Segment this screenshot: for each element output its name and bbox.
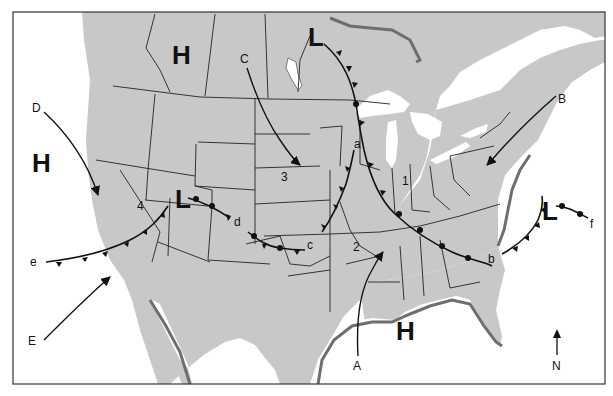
region-label-3: 3 — [281, 170, 288, 184]
region-label-4: 4 — [137, 199, 144, 213]
region-label-1: 1 — [402, 174, 409, 188]
high-pressure-pacific: H — [32, 148, 51, 178]
high-pressure-canada: H — [172, 40, 191, 70]
weather-map: N H H H L L L a b c d e f A B C D E 1 2 … — [0, 0, 613, 396]
arrow-label-A: A — [353, 359, 361, 373]
arrow-label-E: E — [28, 334, 36, 348]
front-dot — [396, 211, 402, 217]
arrow-E — [44, 277, 110, 340]
region-label-2: 2 — [353, 240, 360, 254]
front-label-a: a — [354, 137, 361, 151]
low-pressure-utah: L — [175, 184, 191, 214]
high-pressure-gulf: H — [396, 316, 415, 346]
front-dot — [465, 255, 471, 261]
cold-front-triangle — [102, 251, 108, 257]
low-pressure-manitoba: L — [308, 22, 324, 52]
arrow-label-D: D — [32, 101, 41, 115]
front-label-f: f — [590, 217, 594, 231]
front-label-c: c — [307, 238, 313, 252]
front-dot — [417, 227, 423, 233]
cold-front-triangle — [82, 257, 88, 262]
front-label-e: e — [30, 255, 37, 269]
front-dot — [439, 243, 445, 249]
warm-front-semicircle — [559, 203, 565, 209]
warm-front-semicircle — [577, 211, 583, 217]
arrow-label-C: C — [240, 52, 249, 66]
low-pressure-atlantic: L — [542, 196, 558, 226]
warm-front-semicircle — [277, 245, 283, 251]
north-arrow-icon — [553, 329, 561, 338]
front-label-d: d — [234, 215, 241, 229]
compass-label: N — [552, 359, 561, 373]
cold-front-triangle — [56, 262, 62, 267]
front-label-b: b — [488, 252, 495, 266]
warm-front-semicircle — [193, 196, 199, 202]
compass: N — [552, 329, 561, 373]
front-dot — [353, 101, 359, 107]
warm-front-semicircle — [209, 203, 215, 209]
warm-front-semicircle — [251, 233, 257, 239]
arrow-label-B: B — [558, 92, 566, 106]
